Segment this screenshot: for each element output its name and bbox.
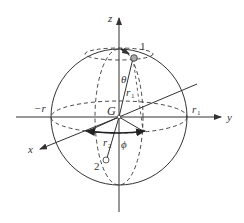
sphere-diagram: z y x G −r r 1 r 1 r 2 θ ϕ 1 2 (0, 0, 244, 223)
theta-label: θ (121, 73, 127, 85)
z-axis-label: z (107, 12, 113, 24)
phi-label: ϕ (121, 138, 127, 150)
radius-r2 (107, 117, 119, 158)
neg-r-label: −r (34, 102, 46, 114)
r2-subscript: 2 (108, 142, 112, 150)
point-2-label: 2 (94, 160, 100, 172)
r1-radius-subscript: 1 (131, 92, 135, 100)
phi-line-right (119, 117, 143, 131)
point-1 (131, 55, 138, 62)
r1-right-subscript: 1 (197, 109, 201, 117)
phi-line-left (88, 117, 119, 131)
phi-arc-right (119, 131, 145, 133)
point-2 (103, 157, 109, 163)
center-label: G (107, 104, 116, 118)
phi-arc-left (86, 131, 119, 133)
x-axis-label: x (27, 143, 33, 155)
y-axis-label: y (226, 111, 232, 123)
origin-point (117, 115, 121, 119)
point-1-label: 1 (140, 40, 146, 52)
